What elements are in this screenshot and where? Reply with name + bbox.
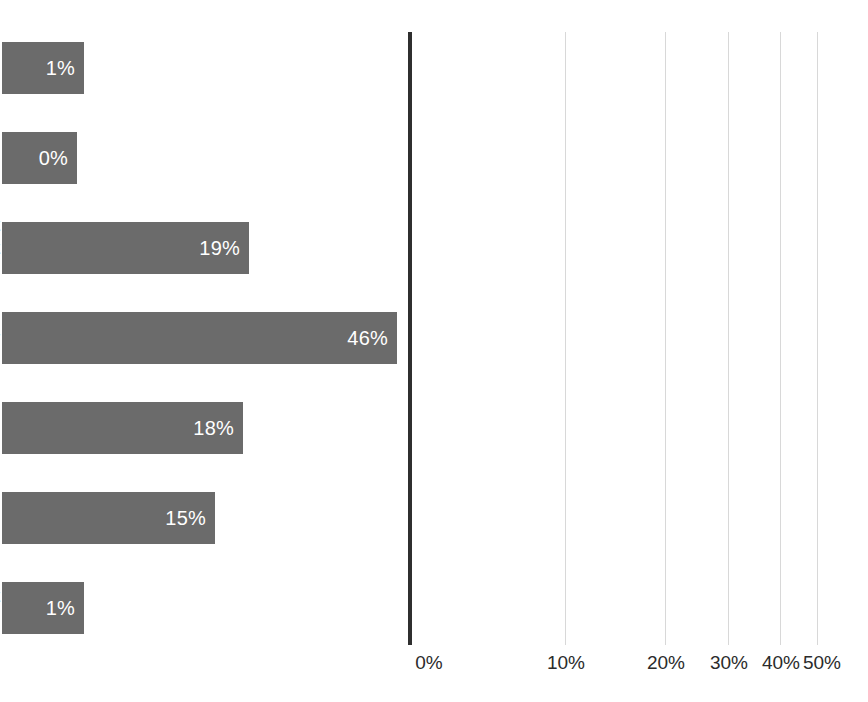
bar-value-label: 0% xyxy=(39,148,68,168)
bar: 1% xyxy=(2,582,84,634)
bar-row: I use both assurance and consulting to e… xyxy=(0,312,868,364)
bar: 1% xyxy=(2,42,84,94)
bar-value-label: 1% xyxy=(46,58,75,78)
bar-value-label: 1% xyxy=(46,598,75,618)
xtick-label: 50% xyxy=(803,652,841,674)
xtick-label: 10% xyxy=(547,652,585,674)
bar-row: My role in the organization is to protec… xyxy=(0,582,868,634)
xtick-label: 0% xyxy=(415,652,442,674)
xtick-label: 40% xyxy=(762,652,800,674)
bar: 19% xyxy=(2,222,249,274)
bar: 18% xyxy=(2,402,243,454)
xtick-label: 20% xyxy=(647,652,685,674)
bar-value-label: 18% xyxy=(193,418,234,438)
bar-row: None of the above 0% xyxy=(0,132,868,184)
bar: 0% xyxy=(2,132,77,184)
bar-value-label: 19% xyxy=(199,238,240,258)
bar-row: I partner with executive management to d… xyxy=(0,222,868,274)
bar: 15% xyxy=(2,492,215,544)
bar-value-label: 46% xyxy=(347,328,388,348)
bar-value-label: 15% xyxy=(165,508,206,528)
bar-row: Not sure 1% xyxy=(0,42,868,94)
bar-row: I primarily use assurance to protect val… xyxy=(0,402,868,454)
bar: 46% xyxy=(2,312,397,364)
bar-chart: Not sure 1% None of the above 0% I partn… xyxy=(0,0,868,702)
bar-row: I may facilitate change by identifying d… xyxy=(0,492,868,544)
xtick-label: 30% xyxy=(710,652,748,674)
